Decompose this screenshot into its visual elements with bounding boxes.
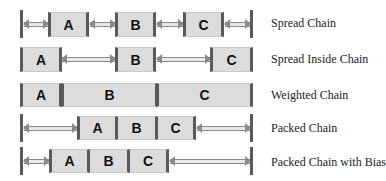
right-boundary (250, 147, 253, 175)
packed-chain-with-bias-row: A B C (0, 0, 386, 181)
packed-chain-with-bias-label: Packed Chain with Bias (271, 155, 386, 170)
box-a: A (49, 149, 89, 173)
box-c: C (128, 149, 169, 173)
spacer-arrow (170, 159, 250, 164)
spacer-arrow (24, 159, 49, 164)
box-b: B (88, 149, 129, 173)
